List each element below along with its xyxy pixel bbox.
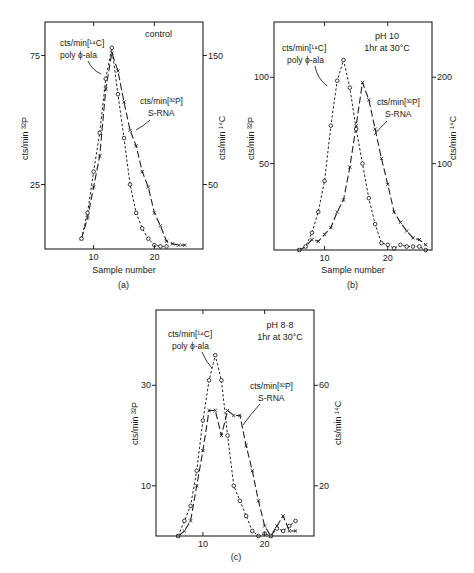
label-32p-b-line2: S-RNA xyxy=(385,109,412,119)
marker-circle xyxy=(220,379,224,383)
chart-a-ticks: 1020257550150 xyxy=(30,22,223,262)
y-tick-label-left: 10 xyxy=(141,481,151,491)
marker-circle xyxy=(411,245,415,249)
condition-label-b-1: 1hr at 30°C xyxy=(364,43,410,53)
arrow-14c-c xyxy=(202,352,212,368)
panel-b: 102050100100200 pH 10 1hr at 30°C cts/mi… xyxy=(237,0,474,280)
y-tick-label-right: 50 xyxy=(208,180,218,190)
marker-circle xyxy=(207,379,211,383)
marker-cross xyxy=(411,236,414,239)
label-32p-a-line2: S-RNA xyxy=(148,108,175,118)
marker-circle xyxy=(128,183,132,187)
chart-a-plot xyxy=(80,46,187,248)
marker-cross xyxy=(288,529,291,532)
marker-cross xyxy=(336,210,339,213)
condition-label-c-1: 1hr at 30°C xyxy=(257,332,303,342)
condition-label-a-0: control xyxy=(145,29,172,39)
y-tick-label-left: 25 xyxy=(30,180,40,190)
marker-circle xyxy=(329,124,333,128)
marker-circle xyxy=(281,529,285,533)
x-tick-label: 20 xyxy=(383,253,393,263)
x-tick-label: 10 xyxy=(89,252,99,262)
marker-cross xyxy=(177,244,180,247)
marker-circle xyxy=(134,211,138,215)
marker-circle xyxy=(195,469,199,473)
y-tick-label-right: 200 xyxy=(437,72,452,82)
label-14c-c-line1: cts/min[¹⁴C] xyxy=(168,329,212,339)
chart-a-svg: 1020257550150 control cts/min[¹⁴C] poly … xyxy=(0,0,237,280)
marker-circle xyxy=(405,245,409,249)
arrow-14c-a xyxy=(88,61,101,74)
caption-c: (c) xyxy=(231,552,242,562)
ylabel-left-a: cts/min ³²P xyxy=(20,117,30,160)
chart-c-ticks: 102010302060 xyxy=(141,310,329,549)
marker-cross xyxy=(232,414,235,417)
marker-circle xyxy=(304,245,308,249)
y-tick-label-left: 75 xyxy=(30,51,40,61)
series-32p-line xyxy=(178,410,295,536)
label-14c-a-line1: cts/min[¹⁴C] xyxy=(60,38,104,48)
xlabel-a: Sample number xyxy=(92,265,156,275)
marker-circle xyxy=(335,79,339,83)
marker-circle xyxy=(310,231,314,235)
marker-circle xyxy=(226,434,230,438)
marker-circle xyxy=(348,86,352,90)
marker-circle xyxy=(354,127,358,131)
marker-circle xyxy=(98,131,102,135)
marker-cross xyxy=(405,229,408,232)
marker-circle xyxy=(316,210,320,214)
arrow-32p-a xyxy=(136,120,150,130)
label-14c-c-line2: poly ϕ-ala xyxy=(172,341,209,351)
ylabel-right-a: cts/min ¹⁴C xyxy=(217,115,227,160)
chart-b-plot xyxy=(297,58,427,252)
marker-circle xyxy=(110,46,114,50)
xlabel-b: Sample number xyxy=(321,265,385,275)
marker-circle xyxy=(140,227,144,231)
marker-circle xyxy=(116,92,120,96)
marker-circle xyxy=(244,514,248,518)
x-tick-label: 10 xyxy=(320,253,330,263)
panel-c: 102010302060 pH 8·8 1hr at 30°C cts/min[… xyxy=(110,295,370,573)
marker-circle xyxy=(183,519,187,523)
y-tick-label-left: 100 xyxy=(254,72,269,82)
marker-cross xyxy=(128,129,131,132)
label-32p-c-line2: S-RNA xyxy=(258,393,285,403)
x-tick-label: 20 xyxy=(260,539,270,549)
marker-circle xyxy=(86,211,90,215)
marker-circle xyxy=(367,196,371,200)
marker-circle xyxy=(238,499,242,503)
marker-circle xyxy=(147,237,151,241)
marker-circle xyxy=(380,241,384,245)
marker-circle xyxy=(250,529,254,533)
x-tick-label: 20 xyxy=(149,252,159,262)
marker-cross xyxy=(399,221,402,224)
label-14c-a-line2: poly ϕ-ala xyxy=(60,50,97,60)
y-tick-label-right: 150 xyxy=(208,51,223,61)
marker-circle xyxy=(361,162,365,166)
marker-circle xyxy=(165,245,169,249)
label-14c-b-line2: poly ϕ-ala xyxy=(287,55,324,65)
marker-circle xyxy=(92,170,96,174)
marker-circle xyxy=(288,524,292,528)
marker-cross xyxy=(159,224,162,227)
marker-circle xyxy=(104,77,108,81)
marker-circle xyxy=(189,504,193,508)
condition-label-c-0: pH 8·8 xyxy=(266,320,293,330)
marker-cross xyxy=(183,529,186,532)
y-tick-label-right: 60 xyxy=(319,380,329,390)
marker-circle xyxy=(159,245,163,249)
ylabel-left-c: cts/min ³²P xyxy=(130,402,140,445)
series-14c-line xyxy=(81,48,166,247)
marker-cross xyxy=(310,238,313,241)
marker-circle xyxy=(342,58,346,62)
arrow-32p-c xyxy=(243,404,260,425)
ylabel-left-b: cts/min ³²P xyxy=(246,117,256,160)
panel-a: 1020257550150 control cts/min[¹⁴C] poly … xyxy=(0,0,237,280)
marker-cross xyxy=(226,409,229,412)
y-tick-label-left: 30 xyxy=(141,380,151,390)
condition-label-b-0: pH 10 xyxy=(375,31,399,41)
chart-b-ticks: 102050100100200 xyxy=(254,22,452,263)
marker-circle xyxy=(323,179,327,183)
marker-circle xyxy=(418,245,422,249)
marker-circle xyxy=(373,222,377,226)
